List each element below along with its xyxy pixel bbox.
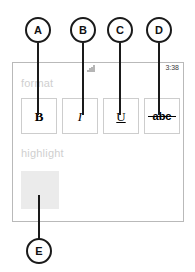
status-bar-clock: 3:38 — [165, 64, 179, 71]
signal-bars-icon — [87, 65, 94, 72]
callout-e-letter: E — [35, 246, 42, 257]
italic-button[interactable]: I — [62, 98, 98, 134]
callout-b-letter: B — [79, 25, 87, 36]
callout-d: D — [146, 17, 172, 43]
format-button-row: B I U abc — [21, 98, 180, 134]
leader-line-a — [37, 43, 39, 115]
highlight-swatch[interactable] — [21, 171, 59, 209]
callout-a: A — [25, 17, 51, 43]
bold-button[interactable]: B — [21, 98, 57, 134]
strikethrough-button[interactable]: abc — [144, 98, 180, 134]
leader-line-d — [158, 43, 160, 115]
callout-c-letter: C — [116, 25, 124, 36]
leader-line-e — [38, 195, 40, 240]
callout-b: B — [70, 17, 96, 43]
underline-button[interactable]: U — [103, 98, 139, 134]
highlight-section-label: highlight — [21, 147, 64, 159]
callout-a-letter: A — [34, 25, 42, 36]
callout-e: E — [26, 238, 52, 264]
callout-d-letter: D — [155, 25, 163, 36]
leader-line-c — [119, 43, 121, 115]
leader-line-b — [82, 43, 84, 115]
strikethrough-glyph: abc — [150, 111, 175, 122]
callout-c: C — [107, 17, 133, 43]
